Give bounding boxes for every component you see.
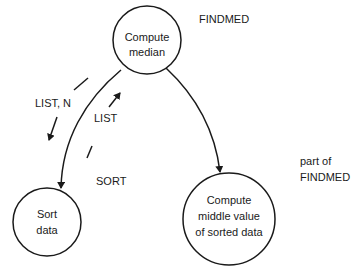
node-label-line: median <box>129 46 165 58</box>
annotation-part-of-findmed: FINDMED <box>300 171 350 183</box>
node-compute-middle-value: Compute middle value of sorted data <box>183 173 275 265</box>
structure-chart-diagram: Compute median Sort data Compute middle … <box>0 0 359 268</box>
node-label-line: of sorted data <box>195 226 263 238</box>
edge-median-to-sort <box>61 70 121 188</box>
node-label-line: middle value <box>198 210 260 222</box>
node-sort-data: Sort data <box>13 188 81 256</box>
node-label-line: Compute <box>207 194 252 206</box>
data-flow-label: LIST <box>94 112 118 124</box>
data-flow-list-n: LIST, N <box>35 78 88 140</box>
node-compute-median: Compute median <box>113 6 181 74</box>
annotation-findmed: FINDMED <box>199 13 249 25</box>
edge-median-to-middle <box>166 68 220 172</box>
node-label-line: data <box>36 224 58 236</box>
node-label-line: Sort <box>37 208 57 220</box>
data-flow-list: LIST <box>87 93 120 158</box>
node-label-line: Compute <box>125 31 170 43</box>
annotation-sort: SORT <box>96 175 127 187</box>
annotation-part-of: part of <box>300 155 332 167</box>
data-flow-label: LIST, N <box>35 97 71 109</box>
